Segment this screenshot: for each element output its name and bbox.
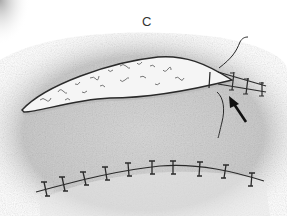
surgical-illustration: C: [0, 0, 287, 216]
illustration-drawing: [0, 0, 287, 216]
panel-label: C: [142, 14, 151, 29]
